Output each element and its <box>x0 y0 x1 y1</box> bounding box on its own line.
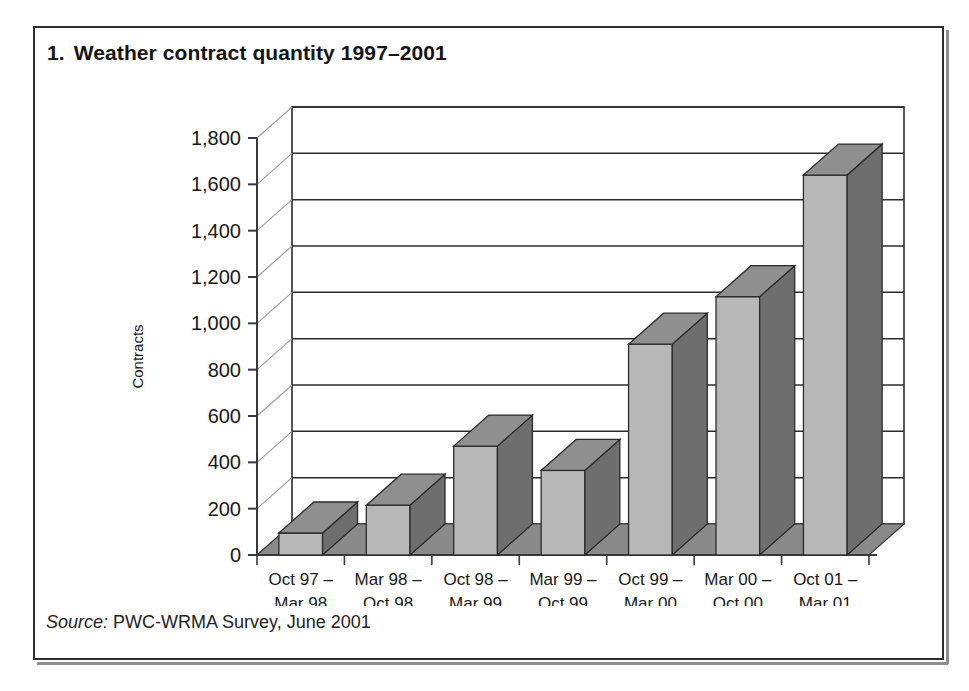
x-axis-category-label: Mar 00 – <box>704 570 772 589</box>
bar-side-face <box>847 144 882 555</box>
gridline-depth-connector <box>257 339 292 370</box>
y-axis-tick-label: 1,200 <box>191 266 241 288</box>
source-text: PWC-WRMA Survey, June 2001 <box>113 612 371 632</box>
bar-group <box>454 415 533 555</box>
bar-group <box>629 313 708 555</box>
y-axis-tick-label: 1,400 <box>191 220 241 242</box>
gridline-depth-connector <box>257 153 292 184</box>
x-axis-category-label: Mar 98 <box>274 594 327 606</box>
bar-front-face <box>454 446 498 555</box>
x-axis-category-label: Oct 99 – <box>618 570 683 589</box>
y-axis-tick-label: 400 <box>208 451 241 473</box>
x-axis-category-label: Mar 98 – <box>355 570 423 589</box>
x-axis-category-label: Mar 99 <box>449 594 502 606</box>
gridline-depth-connector <box>257 107 292 138</box>
y-axis-tick-label: 1,000 <box>191 312 241 334</box>
figure-title: 1.Weather contract quantity 1997–2001 <box>47 41 447 65</box>
y-axis-tick-label: 1,600 <box>191 173 241 195</box>
figure-frame: 1.Weather contract quantity 1997–2001 02… <box>33 26 944 660</box>
y-axis-title: Contracts <box>129 324 146 388</box>
figure-number: 1. <box>47 41 65 64</box>
y-axis-tick-label: 0 <box>230 544 241 566</box>
chart-plot-area: 02004006008001,0001,2001,4001,6001,800Co… <box>35 76 942 606</box>
y-axis-tick-label: 200 <box>208 498 241 520</box>
gridline-depth-connector <box>257 478 292 509</box>
gridline-depth-connector <box>257 292 292 323</box>
x-axis-category-label: Oct 98 <box>363 594 413 606</box>
bar-side-face <box>672 313 707 555</box>
bar-front-face <box>366 505 410 555</box>
gridline-depth-connector <box>257 200 292 231</box>
x-axis-category-label: Mar 00 <box>624 594 677 606</box>
x-axis-category-label: Oct 01 – <box>793 570 858 589</box>
x-axis-category-label: Oct 97 – <box>269 570 334 589</box>
gridline-depth-connector <box>257 246 292 277</box>
bar-front-face <box>541 470 585 555</box>
frame-shadow-right <box>946 30 949 664</box>
x-axis-category-label: Oct 00 <box>713 594 763 606</box>
x-axis-category-label: Oct 99 <box>538 594 588 606</box>
bar-front-face <box>629 344 673 555</box>
bar-group <box>803 144 882 555</box>
x-axis-category-label: Mar 01 <box>799 594 852 606</box>
x-axis-category-label: Oct 98 – <box>443 570 508 589</box>
bar-group <box>716 266 795 555</box>
gridline-depth-connector <box>257 385 292 416</box>
gridline-depth-connector <box>257 431 292 462</box>
y-axis-tick-label: 1,800 <box>191 127 241 149</box>
bar-front-face <box>803 175 847 555</box>
bar-chart-svg: 02004006008001,0001,2001,4001,6001,800Co… <box>35 76 942 606</box>
frame-shadow-bottom <box>37 662 948 665</box>
y-axis-tick-label: 600 <box>208 405 241 427</box>
figure-title-text: Weather contract quantity 1997–2001 <box>74 41 447 64</box>
figure-root: 1.Weather contract quantity 1997–2001 02… <box>0 0 969 691</box>
bar-front-face <box>716 297 760 555</box>
bar-front-face <box>279 533 323 555</box>
source-note: Source: PWC-WRMA Survey, June 2001 <box>46 612 371 633</box>
y-axis-tick-label: 800 <box>208 359 241 381</box>
source-label: Source: <box>46 612 108 632</box>
bar-side-face <box>760 266 795 555</box>
x-axis-category-label: Mar 99 – <box>529 570 597 589</box>
